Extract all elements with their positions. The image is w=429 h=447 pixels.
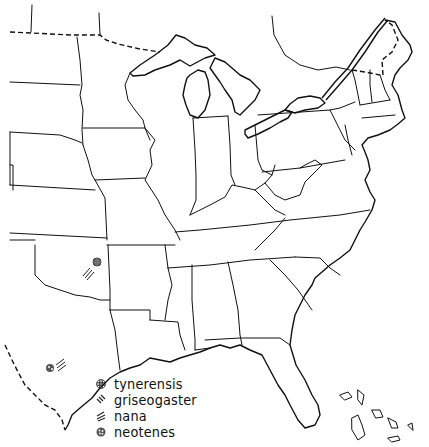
legend-item-tynerensis: tynerensis: [95, 376, 204, 392]
coastline: [65, 20, 412, 430]
canada-lines: [31, 5, 350, 70]
legend-item-neotenes: neotenes: [95, 424, 204, 440]
stipple-dot-icon: [95, 426, 107, 438]
legend-label: nana: [114, 408, 147, 424]
great-lakes: [130, 18, 388, 138]
mexico-border: [5, 345, 65, 430]
islands: [340, 390, 413, 442]
locality-neotenes: [46, 364, 54, 372]
locality-nana: [56, 359, 66, 371]
legend-item-griseogaster: griseogaster: [95, 392, 204, 408]
locality-griseogaster: [83, 268, 94, 280]
double-slash-icon: [95, 410, 107, 422]
crosshatch-dot-icon: [95, 378, 107, 390]
legend-label: neotenes: [114, 424, 175, 440]
legend-item-nana: nana: [95, 408, 204, 424]
distribution-map: [0, 0, 429, 447]
legend-label: griseogaster: [114, 392, 197, 408]
diagonal-lines-icon: [95, 394, 107, 406]
legend-label: tynerensis: [114, 376, 183, 392]
locality-tynerensis: [93, 258, 101, 266]
legend: tynerensis griseogaster nana neotenes: [95, 376, 204, 440]
